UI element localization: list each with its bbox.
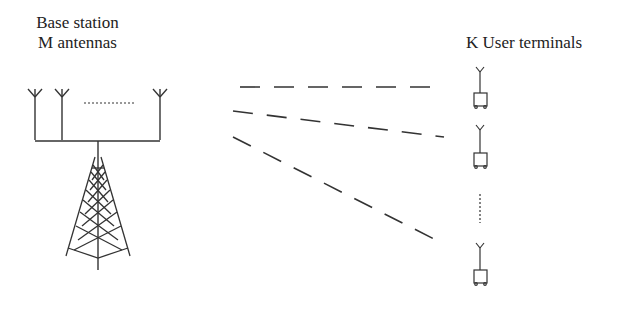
user-terminal-icon <box>474 67 487 108</box>
user-terminals <box>474 67 487 285</box>
system-diagram <box>0 0 644 312</box>
wireless-links <box>233 87 444 241</box>
antenna-icon <box>153 89 167 140</box>
user-terminal-icon <box>474 243 487 285</box>
antenna-icon <box>28 89 42 140</box>
antenna-icon <box>55 89 69 140</box>
user-terminal-icon <box>474 125 487 168</box>
link-user-3 <box>233 137 438 241</box>
link-user-2 <box>233 111 444 137</box>
